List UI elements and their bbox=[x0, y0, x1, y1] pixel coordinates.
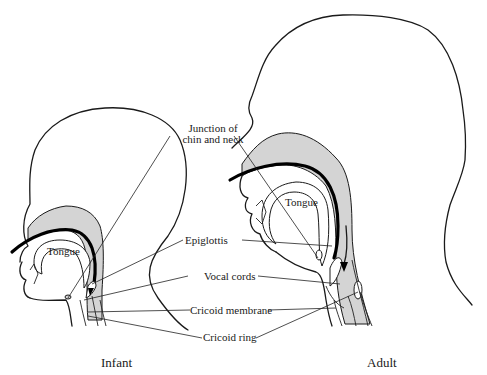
caption-adult: Adult bbox=[367, 356, 397, 370]
adult-head bbox=[230, 15, 472, 326]
adult-hyoid bbox=[316, 250, 322, 260]
infant-chin-neck bbox=[30, 298, 72, 326]
label-cricoid-membrane: Cricoid membrane bbox=[190, 304, 272, 316]
leader-vocal-cords-adult bbox=[258, 276, 340, 284]
label-junction-line2: chin and neck bbox=[172, 133, 254, 145]
leader-epiglottis-infant bbox=[92, 240, 183, 284]
caption-infant: Infant bbox=[101, 356, 132, 370]
label-tongue-adult: Tongue bbox=[285, 196, 318, 208]
label-cricoid-ring: Cricoid ring bbox=[203, 331, 256, 343]
airway-anatomy-diagram bbox=[0, 0, 487, 375]
leader-cricoid-membrane-infant bbox=[88, 310, 190, 312]
leader-cricoid-membrane-adult bbox=[268, 308, 336, 310]
leader-epiglottis-adult bbox=[242, 240, 332, 246]
label-tongue-infant: Tongue bbox=[47, 245, 80, 257]
label-vocal-cords: Vocal cords bbox=[204, 270, 255, 282]
label-epiglottis: Epiglottis bbox=[185, 234, 228, 246]
infant-hyoid bbox=[65, 295, 71, 299]
leader-cricoid-ring-infant bbox=[88, 316, 202, 338]
infant-lips bbox=[20, 262, 30, 298]
